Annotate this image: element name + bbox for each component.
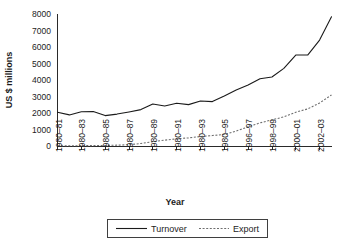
- y-tick-label: 3000: [32, 92, 51, 102]
- x-tick-marks: [58, 147, 320, 151]
- x-tick-label: 2002–03: [316, 119, 326, 152]
- line-chart: US $ millions 8000 7000 6000 5000 4000 3…: [0, 0, 343, 245]
- x-axis-title-text: Year: [165, 197, 185, 207]
- x-tick-label: 1980–91: [173, 119, 183, 152]
- legend-label-export: Export: [233, 224, 260, 234]
- series-line-turnover: [58, 17, 332, 116]
- y-axis-title: US $ millions: [4, 52, 14, 109]
- x-tick-label: 1980–87: [125, 119, 135, 152]
- y-tick-label: 1000: [32, 125, 51, 135]
- y-tick-label: 2000: [32, 108, 51, 118]
- legend-label-turnover: Turnover: [151, 224, 187, 234]
- y-tick-label: 0: [46, 141, 51, 151]
- x-tick-label: 1980–81: [54, 119, 64, 152]
- x-tick-label: 1980–95: [220, 119, 230, 152]
- y-tick-labels: 8000 7000 6000 5000 4000 3000 2000 1000 …: [32, 9, 51, 151]
- x-tick-label: 2000–01: [292, 119, 302, 152]
- x-tick-label: 1980–93: [197, 119, 207, 152]
- y-tick-label: 4000: [32, 75, 51, 85]
- y-tick-label: 7000: [32, 26, 51, 36]
- chart-figure: US $ millions 8000 7000 6000 5000 4000 3…: [0, 0, 343, 245]
- y-axis-title-text: US $ millions: [4, 52, 14, 109]
- y-tick-label: 5000: [32, 59, 51, 69]
- x-tick-label: 1980–83: [77, 119, 87, 152]
- x-tick-label: 1996–97: [244, 119, 254, 152]
- y-tick-label: 6000: [32, 42, 51, 52]
- x-tick-label: 1980–89: [149, 119, 159, 152]
- y-tick-label: 8000: [32, 9, 51, 19]
- chart-legend: Turnover Export: [108, 220, 268, 238]
- x-tick-label: 1980–85: [101, 119, 111, 152]
- x-tick-label: 1998–99: [268, 119, 278, 152]
